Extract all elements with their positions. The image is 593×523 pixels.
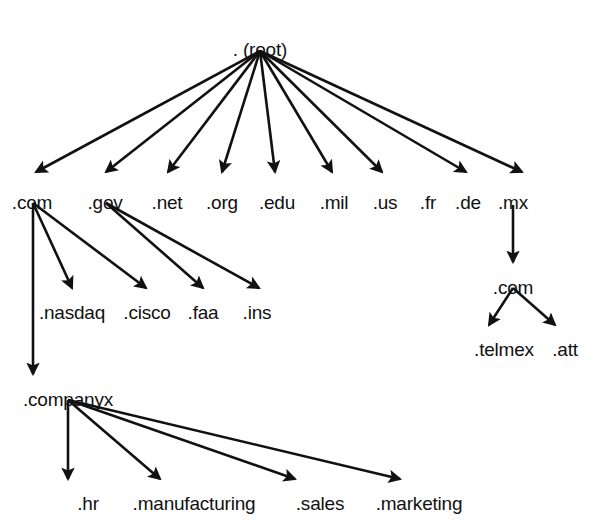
edge-layer [0,0,593,523]
node-com: .com [12,193,52,212]
edge-root-to-edu [260,51,275,172]
node-net: .net [152,193,183,212]
node-edu: .edu [259,193,295,212]
edges-group [33,51,555,479]
node-companyx: .companyx [23,390,113,409]
edge-root-to-mx [260,51,522,172]
node-org: .org [206,193,238,212]
node-telmex: .telmex [474,340,534,359]
node-sales: .sales [296,494,344,513]
node-root: . (root) [233,40,287,59]
node-faa: .faa [188,303,219,322]
node-us: .us [373,193,398,212]
edge-companyx-to-sales [68,400,295,479]
node-mx-com: .com [493,278,533,297]
node-marketing: .marketing [376,494,463,513]
edge-companyx-to-marketing [68,400,400,479]
node-mil: .mil [320,193,349,212]
dns-hierarchy-diagram: . (root).com.gov.net.org.edu.mil.us.fr.d… [0,0,593,523]
edge-gov-to-faa [106,203,203,288]
node-gov: .gov [87,193,122,212]
node-cisco: .cisco [123,303,170,322]
node-nasdaq: .nasdaq [39,303,105,322]
edge-com-to-nasdaq [33,203,72,288]
node-ins: .ins [243,303,272,322]
node-de: .de [455,193,481,212]
node-fr: .fr [420,193,436,212]
node-mx: .mx [498,193,528,212]
node-hr: .hr [77,494,99,513]
node-att: .att [552,340,578,359]
node-manufacturing: .manufacturing [133,494,256,513]
